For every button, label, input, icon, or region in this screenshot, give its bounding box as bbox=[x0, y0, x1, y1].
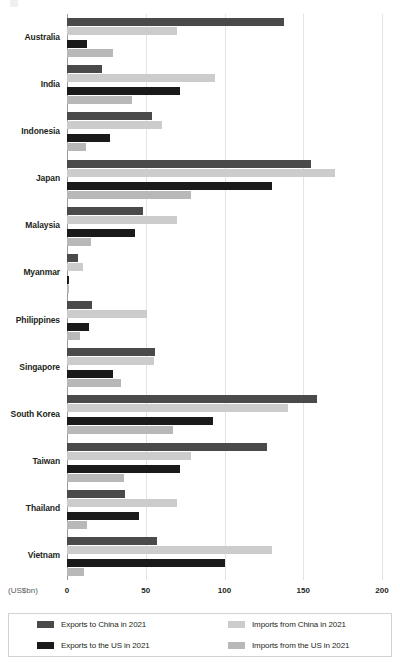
category-label-singapore: Singapore bbox=[0, 362, 60, 372]
bar-row bbox=[67, 537, 382, 545]
legend-swatch bbox=[228, 621, 245, 628]
bar-group bbox=[67, 443, 382, 482]
top-edge-artifact bbox=[10, 0, 18, 7]
bar-row bbox=[67, 40, 382, 48]
bar-imports_us bbox=[67, 191, 191, 199]
x-tick-label-50: 50 bbox=[141, 586, 150, 595]
bar-row bbox=[67, 546, 382, 554]
bar-group bbox=[67, 254, 382, 293]
bar-imports_china bbox=[67, 499, 177, 507]
bar-row bbox=[67, 216, 382, 224]
bar-imports_china bbox=[67, 121, 162, 129]
bar-row bbox=[67, 332, 382, 340]
bar-exports_us bbox=[67, 87, 180, 95]
bar-imports_china bbox=[67, 27, 177, 35]
legend-label: Imports from the US in 2021 bbox=[252, 641, 349, 650]
bar-imports_us bbox=[67, 379, 121, 387]
bar-row bbox=[67, 443, 382, 451]
bar-group bbox=[67, 112, 382, 151]
bar-exports_china bbox=[67, 160, 311, 168]
bar-row bbox=[67, 512, 382, 520]
bar-imports_china bbox=[67, 74, 215, 82]
bar-row bbox=[67, 490, 382, 498]
bar-group bbox=[67, 207, 382, 246]
chart-legend: Exports to China in 2021Imports from Chi… bbox=[8, 613, 392, 657]
bar-row bbox=[67, 18, 382, 26]
legend-item: Imports from China in 2021 bbox=[200, 620, 391, 629]
x-axis: (US$bn) 050100150200 bbox=[0, 583, 400, 603]
bar-imports_china bbox=[67, 169, 335, 177]
bar-exports_china bbox=[67, 348, 155, 356]
legend-swatch bbox=[37, 621, 54, 628]
bar-row bbox=[67, 559, 382, 567]
bar-group bbox=[67, 18, 382, 57]
bar-group bbox=[67, 395, 382, 434]
bar-exports_china bbox=[67, 301, 92, 309]
bar-exports_china bbox=[67, 18, 284, 26]
bar-imports_china bbox=[67, 263, 83, 271]
bar-row bbox=[67, 191, 382, 199]
bar-group bbox=[67, 65, 382, 104]
x-tick-label-100: 100 bbox=[218, 586, 231, 595]
bar-row bbox=[67, 121, 382, 129]
bar-row bbox=[67, 182, 382, 190]
legend-grid: Exports to China in 2021Imports from Chi… bbox=[9, 614, 391, 656]
legend-label: Exports to China in 2021 bbox=[61, 620, 146, 629]
bar-group bbox=[67, 348, 382, 387]
category-label-vietnam: Vietnam bbox=[0, 550, 60, 560]
bar-row bbox=[67, 276, 382, 284]
bar-exports_china bbox=[67, 537, 157, 545]
bar-exports_us bbox=[67, 229, 135, 237]
bar-exports_china bbox=[67, 395, 317, 403]
bar-row bbox=[67, 160, 382, 168]
bar-row bbox=[67, 404, 382, 412]
bar-row bbox=[67, 452, 382, 460]
bar-row bbox=[67, 229, 382, 237]
bar-row bbox=[67, 417, 382, 425]
bar-exports_china bbox=[67, 207, 143, 215]
x-tick-label-200: 200 bbox=[375, 586, 388, 595]
bar-imports_china bbox=[67, 546, 272, 554]
bar-exports_us bbox=[67, 40, 87, 48]
bar-row bbox=[67, 285, 382, 293]
bar-imports_us bbox=[67, 426, 173, 434]
bar-row bbox=[67, 323, 382, 331]
plot-wrapper: AustraliaIndiaIndonesiaJapanMalaysiaMyan… bbox=[0, 14, 400, 580]
plot-area bbox=[67, 14, 382, 580]
bar-row bbox=[67, 65, 382, 73]
bar-imports_us bbox=[67, 332, 80, 340]
bar-imports_us bbox=[67, 49, 113, 57]
bar-row bbox=[67, 348, 382, 356]
bar-row bbox=[67, 310, 382, 318]
gridline-200 bbox=[382, 14, 383, 580]
bar-imports_us bbox=[67, 238, 91, 246]
category-label-thailand: Thailand bbox=[0, 503, 60, 513]
bar-row bbox=[67, 49, 382, 57]
legend-label: Imports from China in 2021 bbox=[252, 620, 346, 629]
bar-group bbox=[67, 537, 382, 576]
bar-exports_us bbox=[67, 370, 113, 378]
bar-row bbox=[67, 357, 382, 365]
x-tick-label-150: 150 bbox=[297, 586, 310, 595]
bar-exports_us bbox=[67, 323, 89, 331]
bar-exports_us bbox=[67, 134, 110, 142]
bar-group bbox=[67, 490, 382, 529]
bar-row bbox=[67, 238, 382, 246]
bar-imports_china bbox=[67, 357, 154, 365]
bar-row bbox=[67, 74, 382, 82]
bar-row bbox=[67, 169, 382, 177]
bar-row bbox=[67, 301, 382, 309]
bar-exports_china bbox=[67, 443, 267, 451]
bar-exports_china bbox=[67, 112, 152, 120]
bar-imports_us bbox=[67, 285, 69, 293]
bar-exports_us bbox=[67, 559, 225, 567]
bar-row bbox=[67, 474, 382, 482]
x-axis-unit-label: (US$bn) bbox=[8, 586, 38, 595]
legend-swatch bbox=[228, 642, 245, 649]
bar-group bbox=[67, 160, 382, 199]
legend-label: Exports to the US in 2021 bbox=[61, 641, 150, 650]
category-label-india: India bbox=[0, 79, 60, 89]
bar-imports_us bbox=[67, 96, 132, 104]
bar-imports_china bbox=[67, 404, 288, 412]
bar-group bbox=[67, 301, 382, 340]
